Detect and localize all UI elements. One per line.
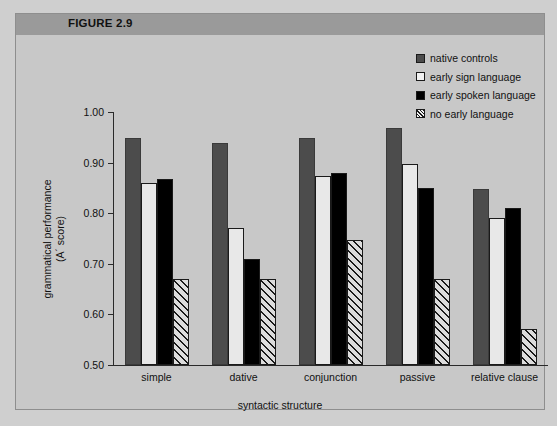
figure-panel: FIGURE 2.9 native controls early sign la… <box>15 13 545 410</box>
bar-early-spoken-language-conjunction <box>331 173 347 365</box>
bar-group-dative: dative <box>200 112 287 365</box>
bar-early-sign-language-relative-clause <box>489 218 505 365</box>
bar-no-early-language-dative <box>260 279 276 365</box>
bar-early-sign-language-dative <box>228 228 244 365</box>
bar-group-passive: passive <box>374 112 461 365</box>
figure-number-label: FIGURE 2.9 <box>68 17 133 29</box>
legend-swatch-gray <box>416 54 425 63</box>
bar-native-controls-relative-clause <box>473 189 489 365</box>
x-tick-label-relative-clause: relative clause <box>471 371 538 383</box>
x-tick-label-dative: dative <box>229 371 257 383</box>
legend-swatch-white <box>416 72 425 81</box>
y-axis-title: grammatical performance (A´ score) <box>41 179 67 298</box>
y-axis-title-line2: (A´ score) <box>54 216 66 262</box>
y-tick-label: 0.90 <box>84 157 104 169</box>
x-axis-title: syntactic structure <box>16 399 544 411</box>
bar-early-spoken-language-simple <box>157 179 173 365</box>
bar-no-early-language-simple <box>173 279 189 365</box>
bar-native-controls-dative <box>212 143 228 365</box>
legend-label-native-controls: native controls <box>430 52 498 64</box>
x-tick-label-conjunction: conjunction <box>304 371 357 383</box>
y-tick-label: 0.80 <box>84 207 104 219</box>
legend-swatch-black <box>416 91 425 100</box>
bar-early-spoken-language-dative <box>244 259 260 365</box>
y-tick-mark <box>108 365 113 366</box>
bar-native-controls-simple <box>125 138 141 365</box>
bar-early-sign-language-passive <box>402 164 418 365</box>
bar-group-conjunction: conjunction <box>287 112 374 365</box>
bar-early-sign-language-conjunction <box>315 176 331 365</box>
x-tick-label-passive: passive <box>400 371 436 383</box>
x-tick-label-simple: simple <box>141 371 171 383</box>
bar-early-sign-language-simple <box>141 183 157 365</box>
legend-item-early-sign-language: early sign language <box>416 68 536 87</box>
x-axis-line <box>113 365 548 366</box>
bar-early-spoken-language-passive <box>418 188 434 365</box>
bar-native-controls-conjunction <box>299 138 315 365</box>
bar-native-controls-passive <box>386 128 402 365</box>
plot-area: 1.000.900.800.700.600.50 simpledativecon… <box>113 112 548 365</box>
y-tick-label: 0.60 <box>84 308 104 320</box>
y-axis-title-line1: grammatical performance <box>41 179 53 298</box>
y-tick-label: 1.00 <box>84 106 104 118</box>
legend-item-native-controls: native controls <box>416 49 536 68</box>
bar-group-relative-clause: relative clause <box>461 112 548 365</box>
bar-no-early-language-passive <box>434 279 450 365</box>
y-tick-label: 0.70 <box>84 258 104 270</box>
legend-item-early-spoken-language: early spoken language <box>416 86 536 105</box>
bar-no-early-language-conjunction <box>347 240 363 365</box>
y-tick-label: 0.50 <box>84 359 104 371</box>
legend-label-early-spoken-language: early spoken language <box>430 89 536 101</box>
legend-label-early-sign-language: early sign language <box>430 71 521 83</box>
figure-header-bar: FIGURE 2.9 <box>16 14 544 35</box>
bar-no-early-language-relative-clause <box>521 329 537 365</box>
bar-early-spoken-language-relative-clause <box>505 208 521 365</box>
bar-group-simple: simple <box>113 112 200 365</box>
